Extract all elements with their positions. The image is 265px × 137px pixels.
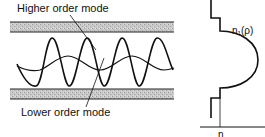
index-profile-curve <box>211 0 258 118</box>
higher-order-mode-label: Higher order mode <box>17 3 109 14</box>
index-profile-label: n₁(ρ) <box>232 26 253 36</box>
fiber-mode-diagram: Higher order mode Lower order mode n₁(ρ)… <box>0 0 265 137</box>
higher-order-mode-wave <box>17 38 173 86</box>
n-axis-label: n <box>218 130 224 137</box>
top-cladding <box>10 22 174 32</box>
lower-order-mode-label: Lower order mode <box>21 107 110 118</box>
